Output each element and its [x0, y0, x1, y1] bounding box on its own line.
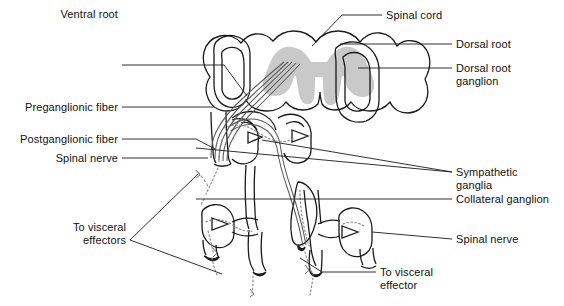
leader-sympathetic-ganglia-a: [262, 140, 452, 172]
label-postganglionic-fiber: Postganglionic fiber: [0, 133, 118, 146]
leader-spinal-nerve-right: [372, 232, 452, 239]
label-spinal-cord: Spinal cord: [386, 9, 442, 22]
label-dorsal-root: Dorsal root: [456, 38, 511, 51]
label-preganglionic-fiber: Preganglionic fiber: [0, 101, 118, 114]
anatomy-figure: Ventral root Preganglionic fiber Postgan…: [0, 0, 564, 306]
label-sympathetic-ganglia: Sympathetic ganglia: [456, 166, 518, 191]
leader-postganglionic-fiber: [122, 139, 215, 149]
gray-matter-region: [263, 47, 375, 105]
fiber-terminal-arrows: [196, 170, 309, 297]
label-to-visceral-effector: To visceral effector: [380, 266, 433, 291]
label-ventral-root: Ventral root: [0, 8, 118, 21]
label-spinal-nerve-right: Spinal nerve: [456, 233, 518, 246]
leader-spinal-cord: [312, 15, 382, 46]
leader-visceral-effectors-a: [130, 174, 198, 240]
leader-visceral-effectors-b: [130, 240, 222, 274]
label-dorsal-root-ganglion: Dorsal root ganglion: [456, 62, 511, 87]
label-collateral-ganglion: Collateral ganglion: [456, 193, 549, 206]
leader-visceral-effector: [300, 258, 376, 272]
leader-ventral-root: [122, 65, 244, 92]
label-spinal-nerve-left: Spinal nerve: [0, 152, 118, 165]
label-to-visceral-effectors: To visceral effectors: [0, 221, 126, 246]
leader-sympathetic-ganglia-b: [196, 148, 452, 172]
fiber-pathways-solid: [230, 119, 306, 246]
